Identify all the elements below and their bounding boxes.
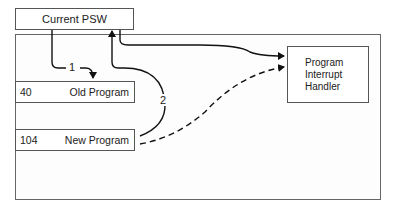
current-psw-box: Current PSW xyxy=(15,8,134,30)
current-psw-label: Current PSW xyxy=(42,13,107,25)
handler-line-1: Program xyxy=(305,57,368,69)
old-program-address: 40 xyxy=(20,86,32,98)
arrow-2-label: 2 xyxy=(160,94,166,106)
old-program-label: Old Program xyxy=(69,86,129,98)
new-program-label: New Program xyxy=(65,134,129,146)
new-program-slot: 104 New Program xyxy=(15,129,135,151)
old-program-slot: 40 Old Program xyxy=(15,81,135,103)
interrupt-handler-box: Program Interrupt Handler xyxy=(287,46,369,103)
handler-line-2: Interrupt xyxy=(305,69,368,81)
handler-line-3: Handler xyxy=(305,81,368,93)
arrow-1-label: 1 xyxy=(69,61,75,73)
new-program-address: 104 xyxy=(20,134,38,146)
